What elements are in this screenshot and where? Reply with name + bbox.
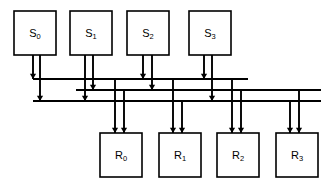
source-node: S2 bbox=[127, 11, 169, 55]
receiver-nodes-group: R0R1R2R3 bbox=[100, 133, 318, 177]
receiver-node: R3 bbox=[276, 133, 318, 177]
source-node: S3 bbox=[189, 11, 231, 55]
source-node: S1 bbox=[70, 11, 112, 55]
source-nodes-group: S0S1S2S3 bbox=[14, 11, 231, 55]
receiver-link-group bbox=[112, 79, 302, 133]
receiver-node: R1 bbox=[159, 133, 201, 177]
receiver-node: R2 bbox=[217, 133, 259, 177]
bus-lines-group bbox=[33, 79, 321, 101]
source-node: S0 bbox=[14, 11, 56, 55]
bus-interconnection-diagram: S0S1S2S3 R0R1R2R3 bbox=[0, 0, 324, 183]
diagram-canvas: S0S1S2S3 R0R1R2R3 bbox=[0, 0, 324, 183]
receiver-node: R0 bbox=[100, 133, 142, 177]
